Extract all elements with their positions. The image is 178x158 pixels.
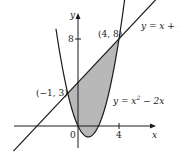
- point-label-4-8: (4, 8): [98, 29, 122, 39]
- y-tick-label-8: 8: [68, 34, 74, 44]
- y-axis-label: y: [69, 10, 76, 20]
- parabola-equation-label: y = x2 − 2x: [112, 94, 164, 106]
- x-axis-arrow-icon: [150, 124, 156, 129]
- x-axis-label: x: [152, 130, 157, 140]
- shaded-region: [68, 39, 119, 137]
- line-equation-label: y = x + 4: [140, 21, 178, 31]
- graph-figure: y x 0 4 8 (−1, 3) (4, 8) y = x + 4 y = x…: [0, 0, 178, 158]
- x-tick-label-4: 4: [116, 130, 122, 140]
- point-label-neg1-3: (−1, 3): [36, 88, 68, 98]
- y-axis-arrow-icon: [76, 13, 81, 19]
- x-tick-label-0: 0: [70, 130, 76, 140]
- graph-svg: y x 0 4 8 (−1, 3) (4, 8) y = x + 4 y = x…: [0, 0, 178, 158]
